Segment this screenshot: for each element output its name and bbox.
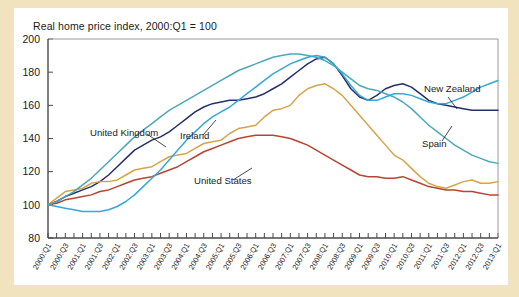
series-label-united-kingdom: United Kingdom <box>90 127 158 138</box>
figure-root: Real home price index, 2000:Q1 = 100 801… <box>0 0 519 297</box>
x-axis-tick-labels: 2000:Q12000:Q32001:Q12001:Q32002:Q12002:… <box>31 242 503 272</box>
y-tick-label: 200 <box>22 33 40 45</box>
series-label-spain: Spain <box>422 138 447 149</box>
series-labels: United KingdomIrelandUnited StatesSpainN… <box>90 83 481 186</box>
series-label-united-states: United States <box>194 175 252 186</box>
y-tick-label: 180 <box>22 66 40 78</box>
figure-panel: Real home price index, 2000:Q1 = 100 801… <box>14 8 508 285</box>
series-label-ireland: Ireland <box>180 130 209 141</box>
y-axis-tick-labels: 80100120140160180200 <box>22 33 40 244</box>
y-tick-label: 120 <box>22 165 40 177</box>
x-axis-ticks <box>48 233 498 238</box>
y-axis-ticks <box>48 39 53 238</box>
y-tick-label: 100 <box>22 199 40 211</box>
series-label-new-zealand: New Zealand <box>424 83 481 94</box>
y-tick-label: 160 <box>22 99 40 111</box>
y-tick-label: 140 <box>22 132 40 144</box>
line-chart-plot: 80100120140160180200 United KingdomIrela… <box>14 8 508 285</box>
y-tick-label: 80 <box>28 232 40 244</box>
